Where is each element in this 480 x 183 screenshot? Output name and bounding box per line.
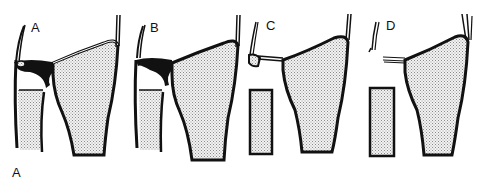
ulna-bone <box>250 90 272 154</box>
radius-bone <box>283 37 348 152</box>
radius-bone <box>172 41 238 160</box>
panel-label-c: C <box>266 18 275 33</box>
ulna-bone <box>370 88 394 156</box>
figure-label: A <box>12 165 21 180</box>
panel-c <box>249 14 351 154</box>
styloid-process <box>17 61 25 67</box>
radius-bone <box>405 36 468 155</box>
panel-a <box>14 15 120 155</box>
panel-label-b: B <box>150 20 159 35</box>
bone-diagram <box>0 0 480 183</box>
ulna-bone <box>139 90 162 150</box>
ulna-bone <box>18 90 43 150</box>
ligament-complex <box>136 58 172 86</box>
panel-label-a: A <box>31 20 40 35</box>
radius-bone <box>53 41 118 155</box>
panel-label-d: D <box>386 18 395 33</box>
panel-b <box>135 15 240 160</box>
panel-d <box>369 14 472 156</box>
medical-illustration: A B C D A <box>0 0 480 183</box>
